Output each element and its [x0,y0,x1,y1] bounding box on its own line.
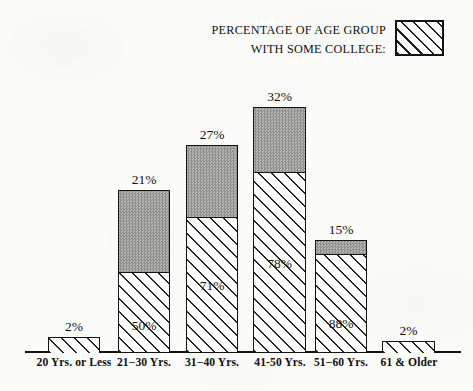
legend-hatch-swatch-icon [395,20,444,56]
bar-3-inside-label: 71% [187,278,237,293]
bar-4-inside-label: 78% [254,256,305,271]
chart-container: 2%21%50%27%71%32%78%15%88%2% 20 Yrs. or … [0,0,473,391]
legend-line-1: PERCENTAGE OF AGE GROUP [212,21,386,40]
bar-6-hatch-segment [383,342,434,353]
bar-5-top-label: 15% [316,222,366,241]
bar-4-hatch-segment: 78% [254,172,305,352]
bar-2-top-label: 21% [119,172,169,191]
bar-5-gray-segment [316,241,366,254]
bar-3[interactable]: 27%71% [186,145,238,352]
bar-5[interactable]: 15%88% [315,240,367,352]
bar-4[interactable]: 32%78% [253,107,306,352]
bar-2-inside-label: 50% [119,318,169,333]
bar-6-top-label: 2% [383,323,434,342]
bar-2[interactable]: 21%50% [118,190,170,352]
bar-6[interactable]: 2% [382,341,435,352]
bar-4-top-label: 32% [254,89,305,108]
bar-5-inside-label: 88% [316,316,366,331]
bar-5-hatch-segment: 88% [316,254,366,352]
legend-text: PERCENTAGE OF AGE GROUP WITH SOME COLLEG… [212,20,386,59]
bar-2-gray-segment [119,191,169,272]
legend-line-2: WITH SOME COLLEGE: [212,40,386,59]
legend: PERCENTAGE OF AGE GROUP WITH SOME COLLEG… [196,20,444,59]
bar-1[interactable]: 2% [48,337,100,352]
bar-3-gray-segment [187,146,237,217]
bar-2-hatch-segment: 50% [119,272,169,352]
bar-1-top-label: 2% [49,319,99,338]
bar-3-top-label: 27% [187,127,237,146]
bar-1-hatch-segment [49,338,99,353]
bar-4-gray-segment [254,108,305,172]
x-axis-label-6: 61 & Older [349,356,469,370]
bar-3-hatch-segment: 71% [187,217,237,352]
